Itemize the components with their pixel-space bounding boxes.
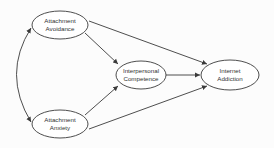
node-label: Attachment	[44, 17, 76, 24]
node-attachment-avoidance: Attachment Avoidance	[32, 11, 88, 39]
edge-avoidance-addiction	[89, 21, 207, 64]
node-internet-addiction: Internet Addiction	[201, 60, 259, 90]
node-label: Internet	[220, 67, 241, 74]
node-attachment-anxiety: Attachment Anxiety	[32, 110, 88, 138]
path-diagram: Attachment Avoidance Attachment Anxiety …	[0, 0, 274, 148]
node-label: Anxiety	[50, 124, 71, 131]
edge-avoidance-competence	[85, 33, 118, 64]
node-interpersonal-competence: Interpersonal Competence	[116, 61, 166, 89]
edge-anxiety-competence	[85, 86, 118, 115]
node-label: Addiction	[217, 75, 243, 82]
node-label: Attachment	[44, 116, 76, 123]
node-label: Avoidance	[46, 25, 75, 32]
node-label: Competence	[123, 75, 159, 82]
node-label: Interpersonal	[123, 67, 159, 74]
edge-anxiety-addiction	[89, 86, 207, 129]
edge-avoidance-anxiety	[17, 28, 32, 122]
